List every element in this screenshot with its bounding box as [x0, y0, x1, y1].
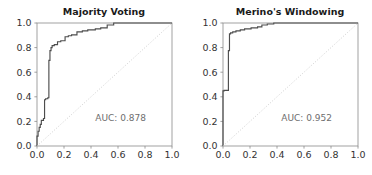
- y-tick-label: 1.0: [202, 17, 217, 28]
- roc-curve-line: [37, 23, 172, 146]
- x-tick-label: 0.6: [296, 149, 311, 160]
- roc-plot-svg-right: Merino's Windowing 0.00.20.40.60.81.00.0…: [186, 0, 372, 175]
- roc-curves-figure: Majority Voting 0.00.20.40.60.81.00.00.2…: [0, 0, 372, 175]
- y-tick-label: 0.2: [16, 116, 31, 127]
- plot-area-left: 0.00.20.40.60.81.00.00.20.40.60.81.0AUC:…: [16, 17, 179, 160]
- panel-title-left: Majority Voting: [63, 6, 145, 17]
- y-tick-label: 0.0: [16, 140, 31, 151]
- y-tick-label: 0.4: [16, 91, 31, 102]
- panel-title-right: Merino's Windowing: [236, 6, 344, 17]
- x-tick-label: 1.0: [350, 149, 365, 160]
- axes-frame: [223, 23, 358, 146]
- x-tick-label: 1.0: [164, 149, 179, 160]
- y-tick-label: 1.0: [16, 17, 31, 28]
- y-tick-label: 0.8: [16, 42, 31, 53]
- x-tick-label: 0.2: [56, 149, 71, 160]
- x-tick-label: 0.0: [215, 149, 230, 160]
- y-tick-label: 0.2: [202, 116, 217, 127]
- chance-diagonal-line: [223, 23, 358, 146]
- x-tick-label: 0.2: [242, 149, 257, 160]
- y-tick-label: 0.6: [16, 67, 31, 78]
- y-tick-label: 0.0: [202, 140, 217, 151]
- x-tick-label: 0.4: [269, 149, 284, 160]
- x-tick-label: 0.4: [83, 149, 98, 160]
- auc-annotation: AUC: 0.878: [95, 113, 146, 123]
- x-tick-label: 0.6: [110, 149, 125, 160]
- x-tick-label: 0.8: [137, 149, 152, 160]
- chart-panel-merinos-windowing: Merino's Windowing 0.00.20.40.60.81.00.0…: [186, 0, 372, 175]
- auc-annotation: AUC: 0.952: [281, 113, 332, 123]
- plot-area-right: 0.00.20.40.60.81.00.00.20.40.60.81.0AUC:…: [202, 17, 365, 160]
- chart-panel-majority-voting: Majority Voting 0.00.20.40.60.81.00.00.2…: [0, 0, 186, 175]
- x-tick-label: 0.0: [29, 149, 44, 160]
- roc-curve-line: [223, 23, 358, 146]
- y-tick-label: 0.6: [202, 67, 217, 78]
- x-tick-label: 0.8: [323, 149, 338, 160]
- roc-plot-svg-left: Majority Voting 0.00.20.40.60.81.00.00.2…: [0, 0, 186, 175]
- y-tick-label: 0.4: [202, 91, 217, 102]
- y-tick-label: 0.8: [202, 42, 217, 53]
